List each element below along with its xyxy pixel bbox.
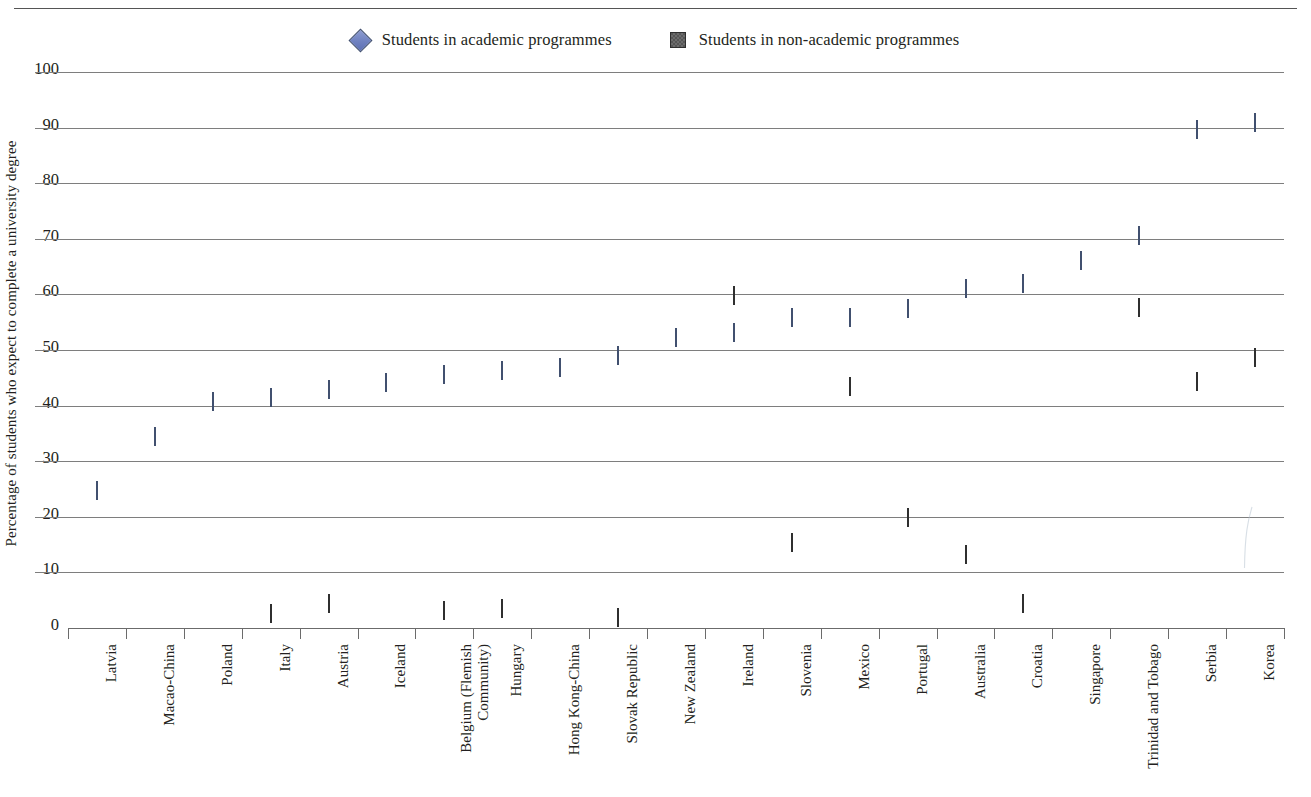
data-point-academic xyxy=(154,428,156,446)
x-axis-tick-mark xyxy=(1284,628,1285,639)
x-axis-tick-label: Slovak Republic xyxy=(624,644,641,744)
x-axis-tick-mark xyxy=(1168,628,1169,639)
data-point-academic xyxy=(385,374,387,392)
x-axis-tick-label: Latvia xyxy=(103,644,120,682)
y-axis-tick-label: 30 xyxy=(43,448,60,468)
gridline xyxy=(68,128,1284,129)
y-axis-title: Percentage of students who expect to com… xyxy=(2,108,22,578)
x-axis-tick-mark xyxy=(647,628,648,639)
y-axis-tick-label: 50 xyxy=(43,337,60,357)
diamond-marker-icon xyxy=(212,392,214,411)
x-axis-tick-mark xyxy=(1052,628,1053,639)
y-axis-tick-label: 80 xyxy=(43,170,60,190)
diamond-marker-icon xyxy=(617,346,619,365)
diamond-marker-icon xyxy=(348,28,372,52)
y-axis-tick-rule xyxy=(35,128,68,129)
square-marker-icon xyxy=(443,601,445,620)
data-point-academic xyxy=(328,381,330,399)
diamond-marker-icon xyxy=(849,308,851,327)
y-axis-tick-rule xyxy=(35,72,68,73)
data-point-non-academic xyxy=(1254,349,1256,367)
diamond-marker-icon xyxy=(965,279,967,298)
data-point-non-academic xyxy=(270,605,272,623)
gridline xyxy=(68,406,1284,407)
data-point-academic xyxy=(907,300,909,318)
y-axis-tick-label: 70 xyxy=(43,226,60,246)
x-axis-tick-label: Belgium (FlemishCommunity) xyxy=(458,644,492,753)
data-point-academic xyxy=(1022,275,1024,293)
x-axis-tick-label: Hungary xyxy=(508,644,525,697)
x-axis-tick-label: Austria xyxy=(335,644,352,688)
y-axis-tick-rule xyxy=(35,572,68,573)
data-point-non-academic xyxy=(617,609,619,627)
data-point-non-academic xyxy=(443,602,445,620)
diamond-marker-icon xyxy=(559,358,561,377)
data-point-non-academic xyxy=(1196,373,1198,391)
x-axis-tick-mark xyxy=(300,628,301,639)
square-marker-icon xyxy=(670,32,686,48)
data-point-non-academic xyxy=(791,534,793,552)
x-axis-tick-label: Serbia xyxy=(1203,644,1220,682)
square-marker-icon xyxy=(849,377,851,396)
square-marker-icon xyxy=(733,286,735,305)
data-point-academic xyxy=(675,329,677,347)
x-axis-tick-mark xyxy=(184,628,185,639)
x-axis-tick-mark xyxy=(879,628,880,639)
data-point-academic xyxy=(96,482,98,500)
data-point-academic xyxy=(849,309,851,327)
x-axis-tick-label: Hong Kong-China xyxy=(566,644,583,755)
scan-artifact xyxy=(1241,506,1255,570)
x-axis-tick-mark xyxy=(68,628,69,639)
chart-legend: Students in academic programmes Students… xyxy=(0,30,1311,50)
square-marker-icon xyxy=(270,604,272,623)
x-axis-tick-mark xyxy=(126,628,127,639)
square-marker-icon xyxy=(907,508,909,527)
x-axis-tick-mark xyxy=(531,628,532,639)
diamond-marker-icon xyxy=(791,308,793,327)
data-point-non-academic xyxy=(733,287,735,305)
data-point-academic xyxy=(733,324,735,342)
square-marker-icon xyxy=(1254,348,1256,367)
x-axis-tick-label: Iceland xyxy=(392,644,409,688)
x-axis-tick-mark xyxy=(415,628,416,639)
x-axis-tick-mark xyxy=(1110,628,1111,639)
diamond-marker-icon xyxy=(1196,120,1198,139)
y-axis-tick-rule xyxy=(35,294,68,295)
x-axis-tick-label: Slovenia xyxy=(798,644,815,697)
y-axis-tick-rule xyxy=(35,350,68,351)
y-axis-tick-rule xyxy=(35,517,68,518)
data-point-non-academic xyxy=(965,546,967,564)
data-point-non-academic xyxy=(907,509,909,527)
diamond-marker-icon xyxy=(501,361,503,380)
x-axis-tick-mark xyxy=(821,628,822,639)
y-axis-title-text: Percentage of students who expect to com… xyxy=(4,140,21,546)
legend-entry-non-academic: Students in non-academic programmes xyxy=(670,30,960,50)
x-axis-tick-mark xyxy=(937,628,938,639)
gridline xyxy=(68,183,1284,184)
x-axis-tick-mark xyxy=(358,628,359,639)
data-point-academic xyxy=(617,347,619,365)
data-point-academic xyxy=(501,362,503,380)
y-axis-tick-label: 10 xyxy=(43,559,60,579)
x-axis-tick-mark xyxy=(1226,628,1227,639)
square-marker-icon xyxy=(1138,298,1140,317)
gridline xyxy=(68,72,1284,73)
data-point-academic xyxy=(1196,121,1198,139)
chart-plot-area: 0102030405060708090100 xyxy=(68,72,1284,628)
x-axis-tick-mark xyxy=(763,628,764,639)
y-axis-tick-rule xyxy=(35,406,68,407)
x-axis-tick-label: Australia xyxy=(972,644,989,699)
data-point-non-academic xyxy=(1022,595,1024,613)
gridline xyxy=(68,350,1284,351)
x-axis-tick-mark xyxy=(242,628,243,639)
square-marker-icon xyxy=(965,545,967,564)
gridline xyxy=(68,239,1284,240)
y-axis-tick-label: 0 xyxy=(51,615,59,635)
x-axis-tick-label: Italy xyxy=(277,644,294,672)
x-axis-line xyxy=(68,628,1284,629)
square-marker-icon xyxy=(1196,372,1198,391)
x-axis-tick-mark xyxy=(589,628,590,639)
diamond-marker-icon xyxy=(154,427,156,446)
y-axis-tick-rule xyxy=(35,183,68,184)
data-point-non-academic xyxy=(849,378,851,396)
